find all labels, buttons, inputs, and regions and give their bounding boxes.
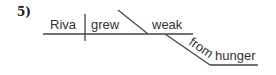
preposition-word: from <box>186 34 216 61</box>
predicate-slant-line <box>118 10 148 34</box>
sentence-diagram: Riva grew weak from hunger <box>0 0 276 75</box>
subject-word: Riva <box>50 17 77 32</box>
object-of-preposition-word: hunger <box>215 48 256 63</box>
verb-word: grew <box>91 17 120 32</box>
predicate-adjective-word: weak <box>151 17 183 32</box>
